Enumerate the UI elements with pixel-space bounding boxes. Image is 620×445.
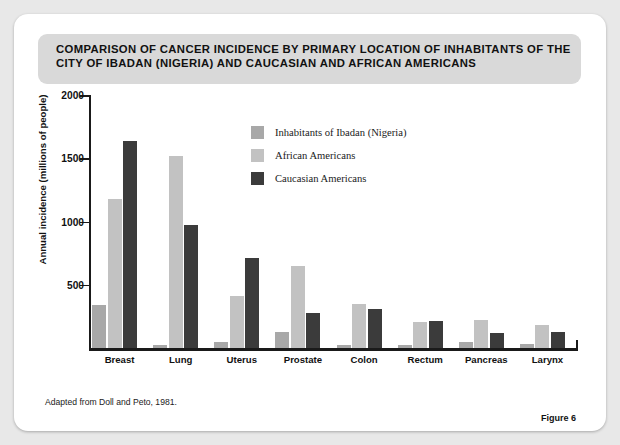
- legend-swatch: [251, 149, 264, 162]
- bar: [245, 258, 259, 348]
- x-axis-category-label: Rectum: [395, 354, 456, 365]
- bar: [413, 322, 427, 348]
- y-axis-tick-label: 1000: [61, 216, 84, 227]
- y-axis-label: Annual incidence (millions of people): [37, 70, 48, 290]
- bar: [306, 313, 320, 348]
- bar: [368, 309, 382, 348]
- x-axis-category-label: Lung: [150, 354, 211, 365]
- bar: [459, 342, 473, 348]
- legend-label: Caucasian Americans: [275, 173, 367, 184]
- x-axis-category-label: Larynx: [517, 354, 578, 365]
- legend-label: African Americans: [275, 150, 355, 161]
- x-axis-category-label: Prostate: [272, 354, 333, 365]
- bar: [337, 345, 351, 348]
- bar: [153, 345, 167, 348]
- bar: [535, 325, 549, 348]
- legend-label: Inhabitants of Ibadan (Nigeria): [275, 127, 407, 138]
- legend-swatch: [251, 126, 264, 139]
- figure-card: COMPARISON OF CANCER INCIDENCE BY PRIMAR…: [14, 14, 606, 431]
- x-axis-category-label: Pancreas: [456, 354, 517, 365]
- x-axis-line: [89, 348, 578, 351]
- bar: [108, 199, 122, 348]
- y-axis-tick-label: 2000: [61, 90, 84, 101]
- bar: [352, 304, 366, 348]
- bar-group: Larynx: [517, 95, 578, 348]
- x-axis-category-label: Breast: [89, 354, 150, 365]
- y-axis-tick-label: 1500: [61, 153, 84, 164]
- x-axis-category-label: Uterus: [211, 354, 272, 365]
- bar: [92, 305, 106, 348]
- bar: [474, 320, 488, 348]
- bar: [291, 266, 305, 348]
- legend-item: Caucasian Americans: [251, 168, 407, 188]
- y-axis-tick-label: 500: [67, 279, 84, 290]
- chart-legend: Inhabitants of Ibadan (Nigeria)African A…: [251, 122, 407, 191]
- legend-item: African Americans: [251, 145, 407, 165]
- bar: [520, 344, 534, 348]
- bar: [123, 141, 137, 348]
- bar: [214, 342, 228, 348]
- bar: [275, 332, 289, 348]
- figure-label: Figure 6: [541, 413, 576, 423]
- bar: [398, 345, 412, 348]
- bar-group: Lung: [150, 95, 211, 348]
- chart-area: Annual incidence (millions of people) 50…: [14, 14, 606, 431]
- bar: [169, 156, 183, 348]
- x-axis-category-label: Colon: [334, 354, 395, 365]
- bar-group: Breast: [89, 95, 150, 348]
- bar: [230, 296, 244, 348]
- legend-swatch: [251, 172, 264, 185]
- bar-group: Pancreas: [456, 95, 517, 348]
- bar: [429, 321, 443, 348]
- bar: [490, 333, 504, 348]
- bar: [551, 332, 565, 348]
- bar: [184, 225, 198, 348]
- source-note: Adapted from Doll and Peto, 1981.: [45, 397, 177, 407]
- legend-item: Inhabitants of Ibadan (Nigeria): [251, 122, 407, 142]
